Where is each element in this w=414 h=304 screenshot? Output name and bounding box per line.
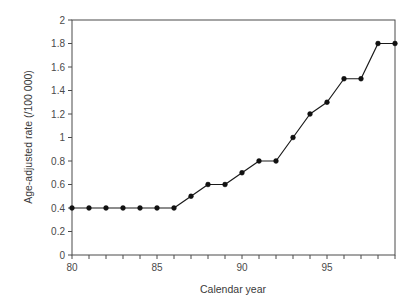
data-point xyxy=(70,206,75,211)
y-tick-label: 1.8 xyxy=(51,38,65,49)
data-point xyxy=(155,206,160,211)
data-point xyxy=(359,76,364,81)
data-series-line xyxy=(72,44,395,209)
data-point xyxy=(87,206,92,211)
x-tick-label: 80 xyxy=(66,262,78,273)
x-tick-label: 90 xyxy=(236,262,248,273)
data-point xyxy=(393,41,398,46)
data-point xyxy=(342,76,347,81)
data-point xyxy=(172,206,177,211)
data-point xyxy=(121,206,126,211)
data-point xyxy=(138,206,143,211)
data-point xyxy=(325,100,330,105)
data-point xyxy=(240,170,245,175)
y-tick-label: 2 xyxy=(59,15,65,26)
data-point xyxy=(376,41,381,46)
y-tick-label: 0.2 xyxy=(51,226,65,237)
y-tick-label: 0 xyxy=(59,250,65,261)
data-point xyxy=(223,182,228,187)
x-tick-label: 95 xyxy=(321,262,333,273)
data-point xyxy=(104,206,109,211)
plot-frame xyxy=(72,20,395,255)
data-series-markers xyxy=(70,41,398,210)
x-axis-ticks: 80859095 xyxy=(66,255,395,273)
y-tick-label: 1.4 xyxy=(51,85,65,96)
data-point xyxy=(291,135,296,140)
data-point xyxy=(308,112,313,117)
y-tick-label: 0.4 xyxy=(51,203,65,214)
y-axis-title: Age-adjusted rate (/100 000) xyxy=(22,70,34,204)
chart-figure: 00.20.40.60.811.21.41.61.82 80859095 Cal… xyxy=(0,0,414,304)
y-tick-label: 0.8 xyxy=(51,156,65,167)
data-point xyxy=(274,159,279,164)
y-tick-label: 0.6 xyxy=(51,179,65,190)
y-axis-ticks: 00.20.40.60.811.21.41.61.82 xyxy=(51,15,72,261)
y-tick-label: 1 xyxy=(59,132,65,143)
line-chart: 00.20.40.60.811.21.41.61.82 80859095 Cal… xyxy=(0,0,414,304)
data-point xyxy=(206,182,211,187)
x-tick-label: 85 xyxy=(151,262,163,273)
data-point xyxy=(189,194,194,199)
y-tick-label: 1.2 xyxy=(51,109,65,120)
data-point xyxy=(257,159,262,164)
x-axis-title: Calendar year xyxy=(200,283,266,295)
y-tick-label: 1.6 xyxy=(51,62,65,73)
